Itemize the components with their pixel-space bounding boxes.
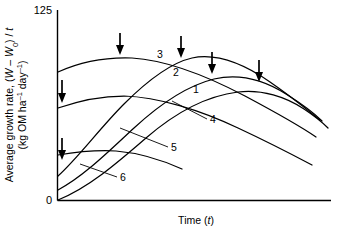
arrow-max-curve-3 [177, 36, 185, 58]
curve-label-5: 5 [171, 141, 177, 153]
x-title-close: ) [210, 214, 214, 226]
curve-label-3: 3 [157, 48, 163, 60]
y-title-lead: Average growth rate, ( [3, 78, 15, 182]
leader-line-curve-5 [120, 128, 168, 147]
y-axis-title: Average growth rate, (W – W0) / t (kg OM… [3, 27, 28, 183]
curve-label-1: 1 [193, 83, 199, 95]
growth-rate-figure: 125 0 Average growth rate, (W – W0) / t … [0, 0, 340, 237]
x-title-lead: Time ( [178, 214, 208, 226]
y-axis-title-line-2: (kg OM ha–1 day–1) [15, 60, 29, 149]
curve-5 [58, 96, 312, 165]
arrow-max-curve-6 [58, 138, 66, 160]
y-units-close: ) [16, 60, 28, 64]
y-title-t: t [3, 27, 15, 31]
leader-line-curve-6 [80, 164, 117, 177]
arrow-max-curve-4 [116, 33, 124, 55]
leader-line-curve-4 [172, 101, 207, 119]
curve-label-4: 4 [210, 113, 216, 125]
curve-3 [58, 57, 320, 176]
x-axis-title: Time (t) [178, 214, 214, 226]
y-title-minus: – [3, 57, 15, 69]
y-axis-min-tick-label: 0 [46, 194, 52, 206]
arrow-max-curve-5 [58, 80, 66, 103]
chart-svg: 125 0 Average growth rate, (W – W0) / t … [0, 0, 340, 237]
y-title-close: ) / [3, 31, 15, 43]
y-units-exponent-1: –1 [15, 92, 24, 100]
y-units-exponent-2: –1 [15, 64, 24, 72]
curve-1 [58, 91, 328, 200]
curve-label-6: 6 [120, 171, 126, 183]
y-units-mid: day [16, 72, 28, 93]
y-units-lead: (kg OM ha [16, 100, 28, 149]
y-axis-max-tick-label: 125 [34, 4, 52, 16]
arrow-max-curve-1 [255, 60, 263, 82]
curve-4 [58, 58, 316, 137]
curve-label-2: 2 [173, 66, 179, 78]
arrow-max-curve-2 [208, 52, 216, 74]
